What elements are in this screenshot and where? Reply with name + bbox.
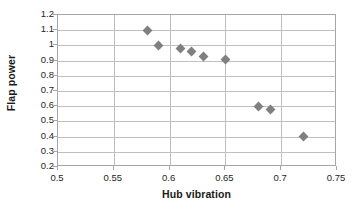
gridline-vertical xyxy=(170,15,171,165)
gridline-vertical xyxy=(281,15,282,165)
gridline-vertical xyxy=(225,15,226,165)
gridline-horizontal xyxy=(58,152,335,153)
x-axis-tick-mark xyxy=(224,166,225,170)
x-axis-tick-label: 0.5 xyxy=(37,173,77,183)
x-axis-tick-mark xyxy=(113,166,114,170)
x-axis-tick-label: 0.7 xyxy=(260,173,300,183)
gridline-horizontal xyxy=(58,76,335,77)
x-axis-tick-mark xyxy=(336,166,337,170)
data-point xyxy=(198,51,208,61)
y-axis-tick-label: 0.7 xyxy=(28,85,54,95)
y-axis-tick-labels: 0.20.30.40.50.60.70.80.911.11.2 xyxy=(25,14,54,166)
gridline-horizontal xyxy=(58,61,335,62)
plot-area xyxy=(57,14,336,166)
y-axis-tick-label: 0.6 xyxy=(28,100,54,110)
y-axis-tick-label: 1.1 xyxy=(28,24,54,34)
y-axis-tick-label: 1.2 xyxy=(28,9,54,19)
x-axis-tick-label: 0.65 xyxy=(204,173,244,183)
data-point xyxy=(187,47,197,57)
x-axis-tick-label: 0.6 xyxy=(149,173,189,183)
x-axis-title: Hub vibration xyxy=(57,188,336,200)
y-axis-title: Flap power xyxy=(0,0,22,166)
x-axis-tick-mark xyxy=(57,166,58,170)
x-axis-tick-mark xyxy=(280,166,281,170)
gridline-horizontal xyxy=(58,121,335,122)
gridline-horizontal xyxy=(58,91,335,92)
x-axis-tick-label: 0.55 xyxy=(93,173,133,183)
y-axis-tick-label: 1 xyxy=(28,40,54,50)
y-axis-tick-label: 0.9 xyxy=(28,55,54,65)
gridline-horizontal xyxy=(58,45,335,46)
data-point xyxy=(220,54,230,64)
gridline-vertical xyxy=(114,15,115,165)
y-axis-tick-label: 0.2 xyxy=(28,161,54,171)
x-axis-tick-labels: 0.50.550.60.650.70.75 xyxy=(57,166,336,188)
y-axis-tick-label: 0.4 xyxy=(28,131,54,141)
gridline-horizontal xyxy=(58,106,335,107)
data-point xyxy=(142,25,152,35)
gridline-horizontal xyxy=(58,137,335,138)
data-point xyxy=(254,101,264,111)
y-axis-title-label: Flap power xyxy=(5,55,17,111)
scatter-chart: Flap power 0.20.30.40.50.60.70.80.911.11… xyxy=(0,0,361,212)
data-point xyxy=(299,132,309,142)
x-axis-tick-mark xyxy=(169,166,170,170)
y-axis-tick-label: 0.8 xyxy=(28,70,54,80)
data-point xyxy=(153,40,163,50)
x-axis-tick-label: 0.75 xyxy=(316,173,356,183)
y-axis-tick-label: 0.3 xyxy=(28,146,54,156)
gridline-horizontal xyxy=(58,30,335,31)
y-axis-tick-label: 0.5 xyxy=(28,116,54,126)
